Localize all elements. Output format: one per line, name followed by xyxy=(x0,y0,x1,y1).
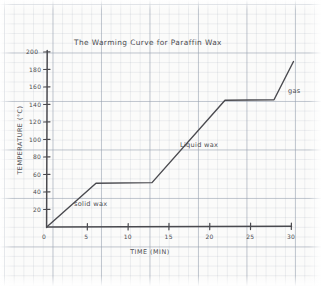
y-tick-label-20: 20 xyxy=(33,206,41,213)
x-axis-label: TIME (MIN) xyxy=(129,248,170,256)
x-tick-label-5: 5 xyxy=(84,233,88,240)
chart-page: The Warming Curve for Paraffin Wax 200 1… xyxy=(0,0,321,286)
y-tick-label-180: 180 xyxy=(29,66,41,73)
warming-curve-chart: The Warming Curve for Paraffin Wax 200 1… xyxy=(0,0,321,286)
y-axis-label: TEMPERATURE (°C) xyxy=(16,105,24,175)
y-tick-label-40: 40 xyxy=(33,188,41,195)
annotation-gas: gas xyxy=(288,87,301,95)
annotation-solid-wax: solid wax xyxy=(74,200,107,208)
x-tick-label-10: 10 xyxy=(124,233,132,240)
y-tick-label-100: 100 xyxy=(29,136,41,143)
x-tick-label-25: 25 xyxy=(246,233,254,240)
y-tick-label-160: 160 xyxy=(29,83,41,90)
x-tick-label-20: 20 xyxy=(205,233,213,240)
annotation-liquid-wax: Liquid wax xyxy=(180,141,218,149)
y-tick-label-80: 80 xyxy=(33,153,41,160)
x-tick-label-15: 15 xyxy=(165,233,173,240)
y-tick-label-120: 120 xyxy=(29,118,41,125)
y-tick-label-200: 200 xyxy=(26,48,38,55)
y-tick-label-0: 0 xyxy=(42,233,46,240)
x-tick-label-30: 30 xyxy=(287,233,295,240)
y-tick-label-140: 140 xyxy=(29,101,41,108)
y-tick-label-60: 60 xyxy=(33,171,41,178)
chart-title: The Warming Curve for Paraffin Wax xyxy=(73,38,222,47)
